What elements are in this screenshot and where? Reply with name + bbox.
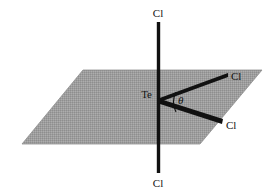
atom-label-equatorial-upper: Cl [231, 71, 241, 82]
angle-label-theta: θ [178, 95, 183, 106]
atom-label-equatorial-lower: Cl [226, 120, 236, 131]
atom-label-central: Te [141, 89, 152, 100]
equatorial-plane [22, 70, 262, 144]
atom-label-axial-bottom: Cl [153, 178, 163, 189]
figure-canvas [0, 0, 278, 196]
molecular-geometry-figure: Cl Cl Te Cl Cl θ [0, 0, 278, 196]
atom-label-axial-top: Cl [153, 8, 163, 19]
